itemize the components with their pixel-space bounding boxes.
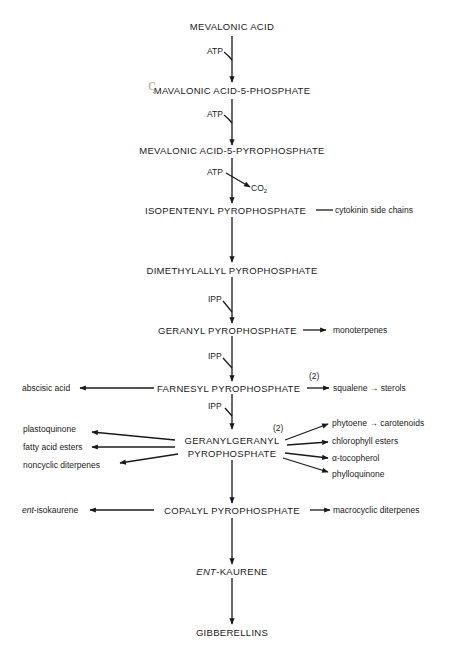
branch-macrocyclic-diterpenes: macrocyclic diterpenes <box>333 506 419 515</box>
cofactor-ipp-2: IPP <box>208 352 222 361</box>
branch-abscisic-acid: abscisic acid <box>22 384 70 393</box>
branch-ent-isokaurene: ent-isokaurene <box>22 506 78 515</box>
note-2-fpp: (2) <box>309 372 319 381</box>
node-mevalonic-acid-5-phosphate: MAVALONIC ACID-5-PHOSPHATE <box>154 86 311 96</box>
cofactor-atp-1: ATP <box>207 47 223 56</box>
node-pyrophosphate: PYROPHOSPHATE <box>188 449 277 459</box>
pencil-mark: ς <box>148 78 156 92</box>
branch-monoterpenes: monoterpenes <box>333 326 387 335</box>
node-copalyl-pyrophosphate: COPALYL PYROPHOSPHATE <box>164 506 300 516</box>
node-geranyl-pyrophosphate: GERANYL PYROPHOSPHATE <box>158 326 297 336</box>
node-isopentenyl-pyrophosphate: ISOPENTENYL PYROPHOSPHATE <box>145 206 306 216</box>
node-mevalonic-acid: MEVALONIC ACID <box>190 22 274 32</box>
node-dimethylallyl-pyrophosphate: DIMETHYLALLYL PYROPHOSPHATE <box>146 266 317 276</box>
branch-phylloquinone: phylloquinone <box>332 470 384 479</box>
node-geranylgeranyl: GERANYLGERANYL <box>184 436 279 446</box>
branch-fatty-acid-esters: fatty acid esters <box>23 443 83 452</box>
node-gibberellins: GIBBERELLINS <box>196 628 268 638</box>
branch-chlorophyll-esters: chlorophyll esters <box>332 437 398 446</box>
branch-noncyclic-diterpenes: noncyclic diterpenes <box>23 461 100 470</box>
node-farnesyl-pyrophosphate: FARNESYL PYROPHOSPHATE <box>157 384 300 394</box>
node-ent-kaurene: ENT-KAURENE <box>196 567 267 577</box>
cofactor-atp-2: ATP <box>207 110 223 119</box>
cofactor-atp-3: ATP <box>207 168 223 177</box>
branch-phytoene-carotenoids: phytoene → carotenoids <box>332 419 424 428</box>
cofactor-ipp-3: IPP <box>208 402 222 411</box>
branch-plastoquinone: plastoquinone <box>23 425 76 434</box>
node-mevalonic-acid-5-pyrophosphate: MEVALONIC ACID-5-PYROPHOSPHATE <box>139 146 325 156</box>
branch-squalene-sterols: squalene → sterols <box>333 384 406 393</box>
product-co2: CO2 <box>251 184 267 194</box>
note-2-ggpp: (2) <box>273 424 283 433</box>
branch-alpha-tocopherol: α-tocopherol <box>332 454 379 463</box>
branch-cytokinin-side-chains: cytokinin side chains <box>335 206 413 215</box>
cofactor-ipp-1: IPP <box>208 295 222 304</box>
